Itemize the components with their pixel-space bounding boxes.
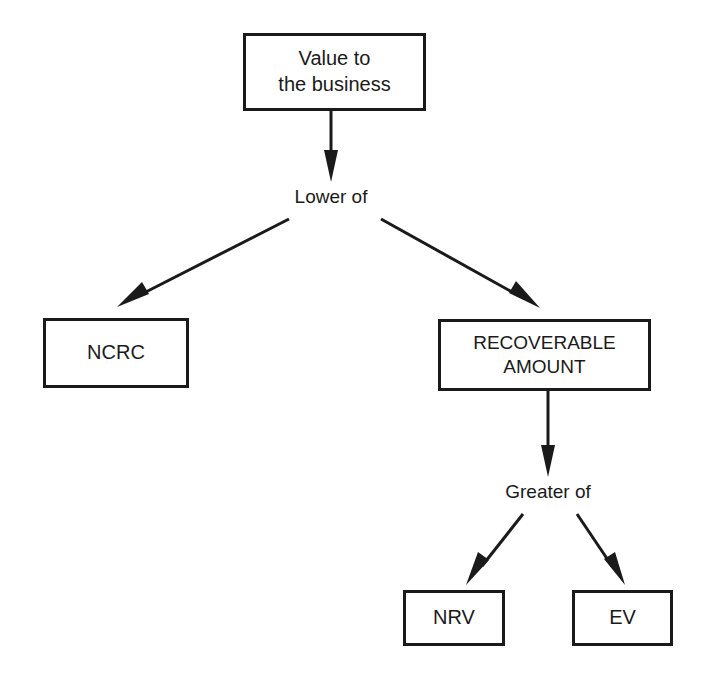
- edge-lower-to-recoverable: [381, 219, 540, 308]
- node-value-to-the-business: Value to the business: [243, 33, 426, 111]
- edge-recoverable-to-greater: [541, 391, 555, 477]
- node-ncrc: NCRC: [43, 318, 189, 388]
- edge-greater-to-ev: [577, 514, 625, 585]
- node-recoverable-amount: RECOVERABLE AMOUNT: [438, 319, 651, 391]
- node-nrv: NRV: [403, 590, 505, 646]
- edge-lower-to-ncrc: [117, 219, 289, 307]
- edge-greater-to-nrv: [466, 514, 523, 585]
- edge-value-to-lower: [324, 111, 338, 182]
- connector-label-greater-of: Greater of: [490, 481, 606, 503]
- node-ev: EV: [572, 590, 673, 646]
- connector-label-lower-of: Lower of: [275, 186, 387, 208]
- diagram-canvas: Value to the business Lower of NCRC RECO…: [0, 0, 709, 683]
